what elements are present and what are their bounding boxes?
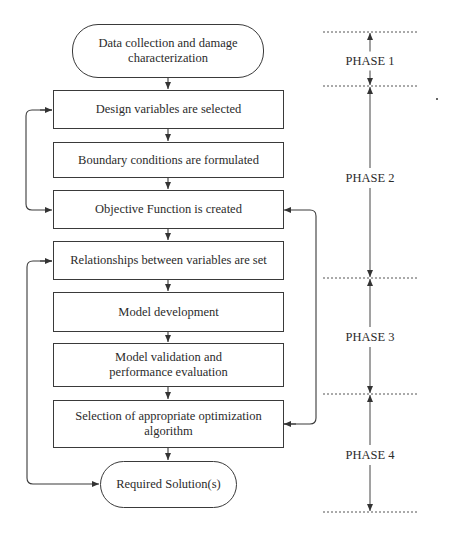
- node-algorithm-selection: Selection of appropriate optimization al…: [53, 400, 284, 448]
- node-label: Required Solution(s): [116, 477, 221, 492]
- node-label: Selection of appropriate optimization al…: [70, 409, 267, 439]
- stray-dot: [436, 98, 438, 100]
- phase-3-label: PHASE 3: [346, 328, 395, 347]
- node-relationships: Relationships between variables are set: [53, 241, 284, 280]
- node-boundary-conditions: Boundary conditions are formulated: [53, 142, 284, 178]
- node-data-collection: Data collection and damage characterizat…: [72, 24, 264, 78]
- node-label: Relationships between variables are set: [70, 253, 266, 268]
- node-model-development: Model development: [53, 292, 284, 332]
- node-label: Design variables are selected: [96, 102, 241, 117]
- node-objective-function: Objective Function is created: [53, 190, 284, 229]
- phase-2-label: PHASE 2: [346, 169, 395, 188]
- node-label: Model validation and performance evaluat…: [92, 350, 245, 380]
- node-label: Data collection and damage characterizat…: [77, 36, 259, 66]
- node-label: Model development: [118, 305, 218, 320]
- phase-4-label: PHASE 4: [346, 446, 395, 465]
- node-label: Boundary conditions are formulated: [78, 153, 259, 168]
- node-design-variables: Design variables are selected: [53, 90, 284, 129]
- phase-1-label: PHASE 1: [346, 52, 395, 71]
- node-required-solution: Required Solution(s): [100, 461, 237, 508]
- node-model-validation: Model validation and performance evaluat…: [53, 343, 284, 387]
- node-label: Objective Function is created: [95, 202, 242, 217]
